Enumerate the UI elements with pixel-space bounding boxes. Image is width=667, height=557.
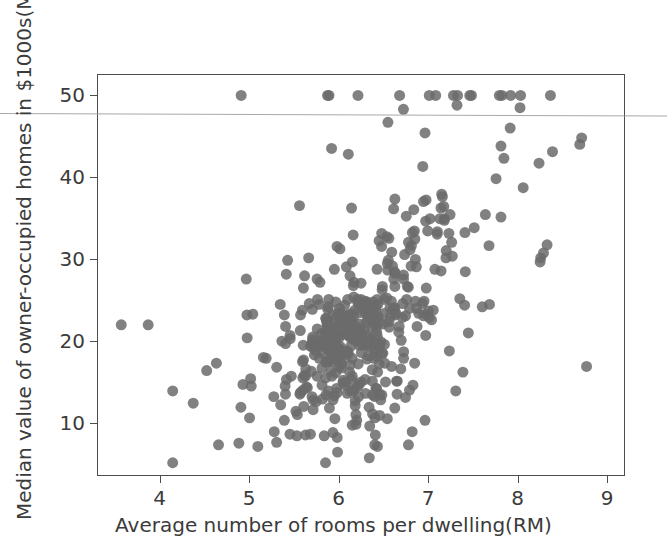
y-axis-label: Median value of owner-occupied homes in … <box>12 0 36 520</box>
y-tick-label: 10 <box>39 411 85 435</box>
x-tick-mark <box>160 476 161 483</box>
x-tick-label: 5 <box>229 486 269 510</box>
y-tick-mark <box>90 95 97 96</box>
y-tick-label: 30 <box>39 247 85 271</box>
scatter-points-layer <box>98 75 624 475</box>
y-tick-mark <box>90 423 97 424</box>
x-tick-label: 9 <box>587 486 627 510</box>
x-tick-label: 8 <box>498 486 538 510</box>
y-tick-label: 40 <box>39 165 85 189</box>
x-tick-label: 6 <box>319 486 359 510</box>
y-tick-mark <box>90 259 97 260</box>
plot-area <box>97 74 625 476</box>
y-tick-mark <box>90 341 97 342</box>
x-tick-label: 7 <box>408 486 448 510</box>
x-tick-mark <box>518 476 519 483</box>
x-tick-label: 4 <box>140 486 180 510</box>
x-tick-mark <box>607 476 608 483</box>
y-tick-label: 20 <box>39 329 85 353</box>
x-tick-mark <box>428 476 429 483</box>
y-tick-mark <box>90 177 97 178</box>
x-tick-mark <box>339 476 340 483</box>
x-axis-label: Average number of rooms per dwelling(RM) <box>0 513 667 537</box>
scatter-plot-figure: 1020304050456789 Average number of rooms… <box>0 0 667 557</box>
x-tick-mark <box>249 476 250 483</box>
y-tick-label: 50 <box>39 83 85 107</box>
